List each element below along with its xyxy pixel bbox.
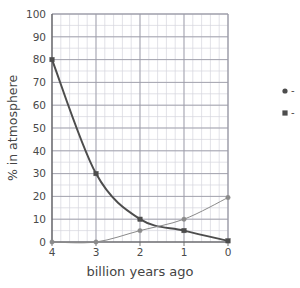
square-marker [182, 228, 186, 232]
circle-marker [182, 217, 186, 221]
legend-square-marker [282, 110, 287, 115]
y-axis-tick-label: 90 [33, 31, 46, 43]
y-axis-tick-label: 30 [33, 167, 46, 179]
y-axis-tick-label: 80 [33, 53, 46, 65]
x-axis-tick-label: 3 [93, 246, 100, 258]
y-axis-tick-label: 40 [33, 145, 46, 157]
circle-marker [138, 228, 142, 232]
circle-marker [94, 240, 98, 244]
y-axis-tick-label: 100 [26, 8, 46, 20]
x-axis-title: billion years ago [86, 264, 193, 279]
y-axis-tick-label: 70 [33, 76, 46, 88]
x-axis-tick-label: 0 [225, 246, 232, 258]
square-marker [138, 217, 142, 221]
circle-marker [50, 240, 54, 244]
y-axis-tick-label: 0 [39, 236, 46, 248]
y-axis-tick-label: 10 [33, 213, 46, 225]
chart-figure: 0102030405060708090100 43210 % in atmosp… [0, 0, 300, 288]
circle-marker [226, 195, 230, 199]
square-marker [226, 239, 230, 243]
y-axis-tick-label: 60 [33, 99, 46, 111]
chart-canvas: 0102030405060708090100 43210 % in atmosp… [0, 0, 300, 288]
legend-circle-marker [282, 88, 287, 93]
y-axis-title: % in atmosphere [5, 75, 20, 182]
legend-entry-label: - [291, 85, 295, 96]
y-axis-tick-label: 20 [33, 190, 46, 202]
x-axis-tick-label: 2 [137, 246, 144, 258]
x-axis-tick-label: 4 [49, 246, 56, 258]
y-axis-tick-label: 50 [33, 122, 46, 134]
x-axis-tick-label: 1 [181, 246, 188, 258]
legend-entry-label: - [291, 107, 295, 118]
square-marker [50, 57, 54, 61]
square-marker [94, 171, 98, 175]
